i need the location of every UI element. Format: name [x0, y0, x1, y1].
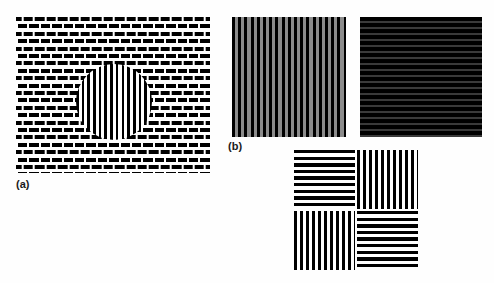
quadrant-grating-figure — [294, 150, 418, 270]
panel-a-label: (a) — [16, 179, 29, 190]
panel-a-circular-inset-vertical-grating — [76, 64, 152, 140]
quadrant-top-right-vertical — [357, 150, 418, 209]
quadrant-top-left-horizontal — [294, 150, 355, 209]
panel-a-plaid-grating — [16, 17, 210, 173]
panel-b-label: (b) — [228, 141, 242, 152]
quadrant-bottom-right-horizontal — [357, 211, 418, 270]
quadrant-bottom-left-vertical — [294, 211, 355, 270]
figure-root: (a) (b) — [0, 0, 494, 283]
panel-b-vertical-grating — [232, 17, 346, 137]
panel-b-horizontal-grating — [360, 17, 482, 137]
